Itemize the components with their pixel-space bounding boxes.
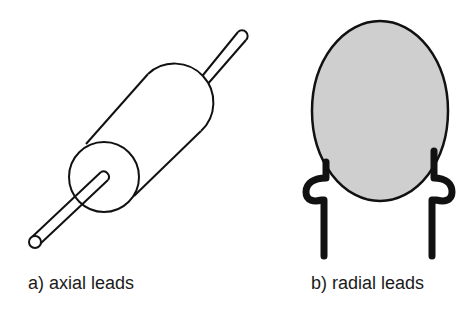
component-leads-diagram: [0, 0, 475, 311]
caption-axial-leads: a) axial leads: [28, 273, 134, 294]
axial-body: [69, 64, 213, 212]
axial-component: [29, 30, 248, 248]
caption-radial-leads: b) radial leads: [311, 273, 424, 294]
axial-lead-right: [199, 30, 248, 86]
radial-body: [312, 21, 448, 201]
radial-lead-right: [432, 151, 452, 256]
radial-component: [306, 21, 452, 256]
radial-lead-left: [306, 162, 326, 256]
